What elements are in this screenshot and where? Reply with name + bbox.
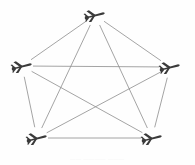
aircraft-icon xyxy=(83,7,106,23)
edge-link xyxy=(155,78,168,128)
aircraft-nose xyxy=(159,67,164,72)
network-diagram xyxy=(0,0,195,165)
edge-link xyxy=(33,66,159,67)
uav-node-right[interactable] xyxy=(158,59,181,75)
edge-link xyxy=(31,21,86,59)
edge-link xyxy=(24,77,35,127)
uav-node-bottom-right[interactable] xyxy=(140,130,163,146)
edge-link xyxy=(104,21,161,60)
figure-caption: —— ———— ——— xyxy=(70,157,124,160)
aircraft-nose xyxy=(11,66,16,71)
figure-container: —— ———— ——— xyxy=(0,0,195,165)
uav-node-left[interactable] xyxy=(10,58,33,74)
edges-layer xyxy=(24,21,167,138)
aircraft-icon xyxy=(158,59,181,75)
aircraft-icon xyxy=(10,58,33,74)
edge-link xyxy=(42,25,91,128)
uav-node-top[interactable] xyxy=(83,7,106,23)
caption-strip: —— ———— ——— xyxy=(0,152,195,165)
aircraft-nose xyxy=(26,138,31,143)
aircraft-nose xyxy=(141,138,146,143)
aircraft-icon xyxy=(25,130,48,146)
aircraft-nose xyxy=(84,15,89,20)
uav-node-bottom-left[interactable] xyxy=(25,130,48,146)
aircraft-icon xyxy=(140,130,163,146)
